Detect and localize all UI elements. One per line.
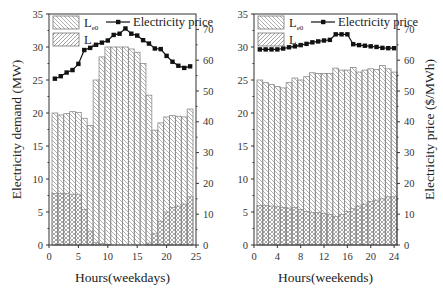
y-tick-label: 25 <box>33 75 44 86</box>
bar-le0 <box>128 49 134 245</box>
price-marker <box>135 33 139 37</box>
price-marker <box>147 41 151 45</box>
y-tick-label: 10 <box>238 174 249 185</box>
bar-les <box>333 217 339 245</box>
x-tick-label: 4 <box>275 251 281 262</box>
price-marker <box>76 62 80 66</box>
y2-axis-label: Electricity price ($/MWh) <box>422 59 437 200</box>
y2-tick-label: 30 <box>404 147 415 158</box>
legend-label-le0: Le0 <box>289 16 304 32</box>
y2-tick-label: 20 <box>404 178 415 189</box>
legend-swatch-le0 <box>53 16 79 29</box>
y-tick-label: 20 <box>238 108 249 119</box>
chart-canvas: 051015202530350102030405060700510152025H… <box>0 0 443 292</box>
y-tick-label: 15 <box>33 141 44 152</box>
bar-les <box>274 207 280 245</box>
bar-les <box>70 194 76 245</box>
x-tick-label: 5 <box>76 251 81 262</box>
bar-le0 <box>99 57 105 245</box>
x-axis-label: Hours(weekends) <box>278 270 373 285</box>
bar-les <box>58 194 64 245</box>
price-marker <box>117 32 121 36</box>
x-tick-label: 0 <box>251 251 256 262</box>
price-marker <box>304 42 308 46</box>
legend-swatch-les <box>258 33 284 46</box>
bar-le0 <box>111 47 117 245</box>
y-tick-label: 10 <box>33 174 44 185</box>
price-marker <box>316 39 320 43</box>
bar-les <box>152 234 158 245</box>
bar-les <box>321 213 327 245</box>
x-tick-label: 24 <box>389 251 400 262</box>
y-tick-label: 15 <box>238 141 249 152</box>
bar-le0 <box>117 47 123 245</box>
price-marker <box>82 48 86 52</box>
y-tick-label: 35 <box>238 9 249 20</box>
y2-tick-label: 0 <box>404 240 409 251</box>
bar-les <box>380 199 386 245</box>
bar-les <box>263 205 269 245</box>
price-marker <box>70 68 74 72</box>
bar-les <box>87 231 93 245</box>
y2-tick-label: 0 <box>203 240 208 251</box>
price-marker <box>258 47 262 51</box>
y2-tick-label: 40 <box>404 116 415 127</box>
bar-les <box>327 215 333 245</box>
bars <box>52 47 193 245</box>
y2-tick-label: 50 <box>203 86 214 97</box>
y2-tick-label: 30 <box>203 147 214 158</box>
bar-les <box>158 221 164 245</box>
y-tick-label: 5 <box>243 207 248 218</box>
price-marker <box>164 54 168 58</box>
bar-les <box>170 207 176 245</box>
y2-tick-label: 10 <box>404 209 415 220</box>
price-marker <box>53 76 57 80</box>
price-marker <box>176 64 180 68</box>
y2-tick-label: 40 <box>203 116 214 127</box>
y-tick-label: 0 <box>38 240 43 251</box>
x-tick-label: 20 <box>161 251 172 262</box>
price-marker <box>159 47 163 51</box>
x-tick-label: 25 <box>191 251 202 262</box>
price-marker <box>328 38 332 42</box>
price-marker <box>182 66 186 70</box>
price-marker <box>334 32 338 36</box>
bar-les <box>345 211 351 245</box>
bar-le0 <box>134 52 140 245</box>
price-marker <box>141 38 145 42</box>
legend-label-les: Les <box>84 33 98 49</box>
y2-tick-label: 60 <box>404 55 415 66</box>
bar-les <box>350 209 356 245</box>
price-marker <box>100 40 104 44</box>
y-tick-label: 35 <box>33 9 44 20</box>
price-marker <box>111 33 115 37</box>
bar-les <box>298 209 304 245</box>
price-marker <box>153 46 157 50</box>
y-tick-label: 25 <box>238 75 249 86</box>
bar-les <box>286 208 292 245</box>
bar-le0 <box>123 47 129 245</box>
price-marker <box>345 32 349 36</box>
price-marker <box>123 26 127 30</box>
x-tick-label: 10 <box>103 251 114 262</box>
price-marker <box>386 46 390 50</box>
price-marker <box>351 42 355 46</box>
bar-le0 <box>87 126 93 245</box>
price-marker <box>374 45 378 49</box>
x-tick-label: 15 <box>132 251 143 262</box>
y-tick-label: 20 <box>33 108 44 119</box>
bar-les <box>269 206 275 245</box>
bar-les <box>52 194 58 245</box>
bar-les <box>257 205 263 245</box>
y-axis-label: Electricity demand (MW) <box>9 60 24 199</box>
legend-swatch-le0 <box>258 16 284 29</box>
bar-les <box>76 194 82 245</box>
bar-les <box>356 206 362 245</box>
x-axis-label: Hours(weekdays) <box>75 270 170 285</box>
legend-label-price: Electricity price <box>338 15 419 29</box>
bar-le0 <box>152 130 158 245</box>
legend-swatch-les <box>53 33 79 46</box>
price-marker <box>369 44 373 48</box>
y-tick-label: 30 <box>33 42 44 53</box>
bar-les <box>362 204 368 245</box>
